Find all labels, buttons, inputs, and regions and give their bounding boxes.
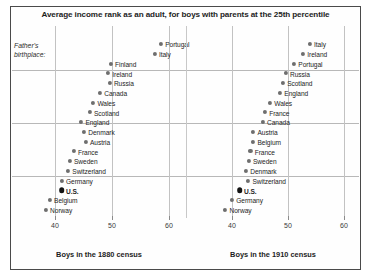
axis-tick-label: 50 [284,222,292,229]
data-point-label: Denmark [88,129,114,136]
data-point-label: Italy [314,41,326,48]
data-point[interactable] [48,198,52,202]
data-point[interactable] [301,52,305,56]
chart-title: Average income rank as an adult, for boy… [10,10,361,19]
data-point[interactable] [59,187,65,193]
data-point-label: England [284,90,308,97]
gridline-vertical [55,26,56,218]
data-point-label: France [255,148,275,155]
data-point-label: Belgium [54,197,77,204]
data-point-label: Sweden [74,158,98,165]
data-point[interactable] [72,149,76,153]
data-point[interactable] [98,91,102,95]
gridline-vertical [232,26,233,218]
caption-1910-census: Boys in the 1910 census [187,250,359,259]
data-point-label: U.S. [244,187,257,194]
data-point-label: Belgium [257,138,280,145]
data-point-label: Scotland [94,109,119,116]
panel-1910-census: ItalyIrelandPortugalRussiaScotlandEnglan… [187,26,359,218]
axis-tick-label: 50 [108,222,116,229]
gridline-horizontal [12,176,186,177]
data-point-label: Italy [159,51,171,58]
axis-tick-label: 60 [340,222,348,229]
data-point[interactable] [88,110,92,114]
data-point-label: Denmark [250,168,276,175]
data-point-label: Canada [267,119,290,126]
data-point-label: Russia [290,70,310,77]
data-point[interactable] [106,71,110,75]
axis-tickmark [112,216,113,220]
data-point-label: Russia [114,80,134,87]
gridline-vertical [112,26,113,218]
data-point-label: Germany [66,177,93,184]
data-point-label: Norway [229,207,251,214]
data-point[interactable] [278,91,282,95]
data-point[interactable] [248,149,252,153]
data-point[interactable] [60,178,64,182]
data-point-label: U.S. [66,187,79,194]
axis-tick-label: 40 [228,222,236,229]
data-point-label: Finland [115,60,136,67]
data-point[interactable] [268,100,272,104]
data-point[interactable] [91,100,95,104]
data-point[interactable] [244,169,248,173]
axis-tick-label: 60 [165,222,173,229]
data-point[interactable] [292,61,296,65]
data-point[interactable] [223,208,227,212]
axis-tickmark [232,216,233,220]
data-point-label: Canada [104,90,127,97]
data-point-label: France [269,109,289,116]
data-point[interactable] [281,81,285,85]
axis-tickmark [55,216,56,220]
data-point[interactable] [251,139,255,143]
data-point-label: Switzerland [72,168,106,175]
data-point-label: Wales [274,99,292,106]
caption-1880-census: Boys in the 1880 census [12,250,186,259]
data-point-label: Ireland [112,70,132,77]
data-point-label: Sweden [253,158,277,165]
data-point[interactable] [82,130,86,134]
data-point[interactable] [308,42,312,46]
data-point[interactable] [230,198,234,202]
data-point[interactable] [153,52,157,56]
data-point-label: Switzerland [252,177,286,184]
data-point-label: Wales [97,99,115,106]
data-point[interactable] [66,169,70,173]
data-point[interactable] [159,42,163,46]
data-point[interactable] [44,208,48,212]
axis-tickmark [344,216,345,220]
panel-1880-census: PortugalItalyFinlandIrelandRussiaCanadaW… [12,26,186,218]
axis-tick-label: 40 [51,222,59,229]
axis-tickmark [288,216,289,220]
data-point[interactable] [237,187,243,193]
data-point[interactable] [247,159,251,163]
data-point-label: Scotland [287,80,312,87]
data-point-label: Ireland [307,51,327,58]
data-point[interactable] [251,130,255,134]
gridline-horizontal [12,70,186,71]
chart-figure: Average income rank as an adult, for boy… [0,0,371,278]
gridline-vertical [344,26,345,218]
data-point-label: England [85,119,109,126]
data-point-label: Portugal [298,60,322,67]
data-point-label: Austria [257,129,277,136]
data-point-label: Norway [50,207,72,214]
axis-tickmark [169,216,170,220]
data-point[interactable] [246,178,250,182]
data-point-label: Germany [236,197,263,204]
data-point[interactable] [263,110,267,114]
data-point-label: Austria [90,138,110,145]
data-point[interactable] [68,159,72,163]
gridline-horizontal [187,70,359,71]
data-point-label: France [78,148,98,155]
data-point[interactable] [84,139,88,143]
